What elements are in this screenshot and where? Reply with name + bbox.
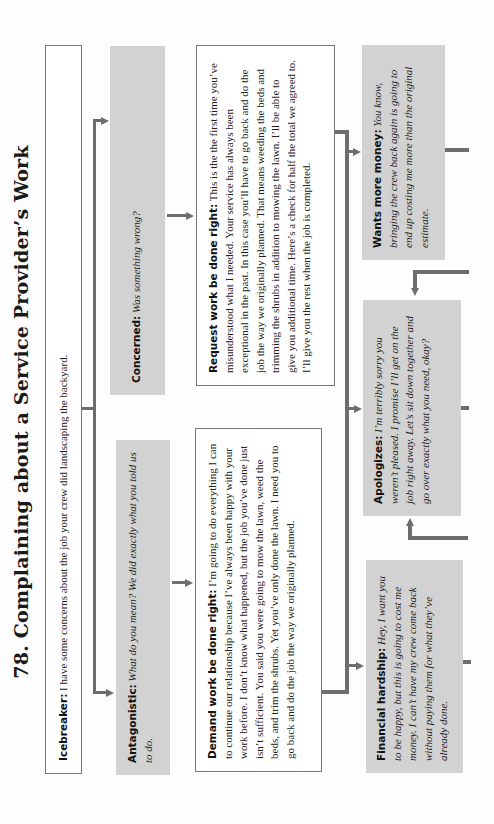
request-label: Request work be done right: <box>207 204 219 373</box>
wants-more-money-box: Wants more money: You know, bringing the… <box>362 45 445 260</box>
request-text: This is the the first time you’ve misund… <box>207 60 312 373</box>
connector-line <box>408 526 412 540</box>
wants-more-money-label: Wants more money: <box>371 129 383 248</box>
demand-text: I’m going to do everything I can to cont… <box>206 444 296 759</box>
arrow-icon <box>353 148 361 156</box>
connector-line <box>167 214 187 217</box>
arrow-icon <box>406 518 414 526</box>
connector-line <box>413 270 469 274</box>
concerned-text: Was something wrong? <box>130 211 142 316</box>
connector-line <box>408 536 468 540</box>
connector-line <box>413 270 417 288</box>
icebreaker-text: I have some concerns about the job your … <box>57 355 69 694</box>
demand-label: Demand work be done right: <box>206 589 218 759</box>
arrow-icon <box>354 405 362 413</box>
connector-line <box>468 0 471 824</box>
connector-line <box>322 690 346 694</box>
financial-hardship-box: Financial hardship: Hey, I want you to b… <box>366 560 463 773</box>
page-title: 78. Complaining about a Service Provider… <box>10 0 40 824</box>
connector-line <box>172 581 186 584</box>
arrow-icon <box>101 117 109 125</box>
apologizes-box: Apologizes: I’m terribly sorry you weren… <box>363 300 461 516</box>
arrow-icon <box>106 689 114 697</box>
request-box: Request work be done right: This is the … <box>196 45 335 386</box>
financial-hardship-label: Financial hardship: <box>375 648 387 761</box>
arrow-icon <box>185 579 193 587</box>
arrow-icon <box>186 212 194 220</box>
connector-line <box>93 120 96 694</box>
icebreaker-label: Icebreaker: <box>57 694 69 761</box>
antagonistic-label: Antagonistic: <box>126 684 138 763</box>
concerned-label: Concerned: <box>130 316 142 383</box>
concerned-box: Concerned: Was something wrong? <box>110 46 165 395</box>
demand-box: Demand work be done right: I’m going to … <box>195 428 322 772</box>
document-page: 78. Complaining about a Service Provider… <box>0 0 494 824</box>
arrow-icon <box>411 288 419 296</box>
arrow-icon <box>356 662 364 670</box>
connector-line <box>445 148 469 152</box>
apologizes-label: Apologizes: <box>372 436 384 504</box>
antagonistic-box: Antagonistic: What do you mean? We did e… <box>116 440 170 775</box>
connector-line <box>345 130 349 694</box>
connector-line <box>93 691 107 694</box>
icebreaker-box: Icebreaker: I have some concerns about t… <box>45 45 82 774</box>
